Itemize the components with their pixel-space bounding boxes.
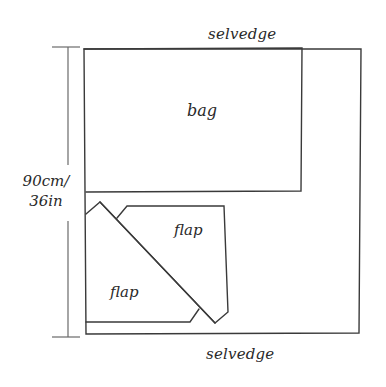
flap-label-upper: flap <box>174 223 203 238</box>
dimension-label-metric: 90cm/ <box>22 174 70 189</box>
flap-label-lower: flap <box>110 285 139 300</box>
selvedge-label-top: selvedge <box>208 27 276 42</box>
selvedge-label-bottom: selvedge <box>206 347 274 362</box>
dimension-label-imperial: 36in <box>22 194 70 209</box>
bag-label: bag <box>187 103 217 119</box>
bag-piece <box>84 48 302 192</box>
flap-piece-upper <box>100 202 228 323</box>
cutting-layout-diagram: selvedge bag flap flap 90cm/ 36in selved… <box>0 0 386 387</box>
